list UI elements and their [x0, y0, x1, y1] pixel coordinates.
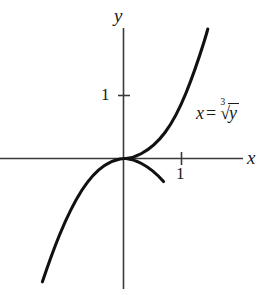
- graph-figure: y x 1 1 x=3√y: [0, 0, 266, 295]
- y-axis-label: y: [114, 6, 122, 25]
- radicand: y: [228, 103, 239, 122]
- y-axis-tick-label-1: 1: [101, 86, 110, 103]
- cube-root-radical: 3√y: [220, 103, 239, 122]
- x-axis-tick-label-1: 1: [176, 165, 185, 182]
- plot-canvas: [0, 0, 266, 295]
- cubic-curve: [42, 158, 163, 281]
- radical-index: 3: [220, 97, 225, 107]
- cubic-curve-upper: [126, 29, 208, 159]
- equation-equals-sign: =: [206, 103, 216, 123]
- equation-lhs: x: [196, 103, 204, 123]
- equation-annotation: x=3√y: [196, 103, 239, 122]
- x-axis-label: x: [247, 148, 255, 167]
